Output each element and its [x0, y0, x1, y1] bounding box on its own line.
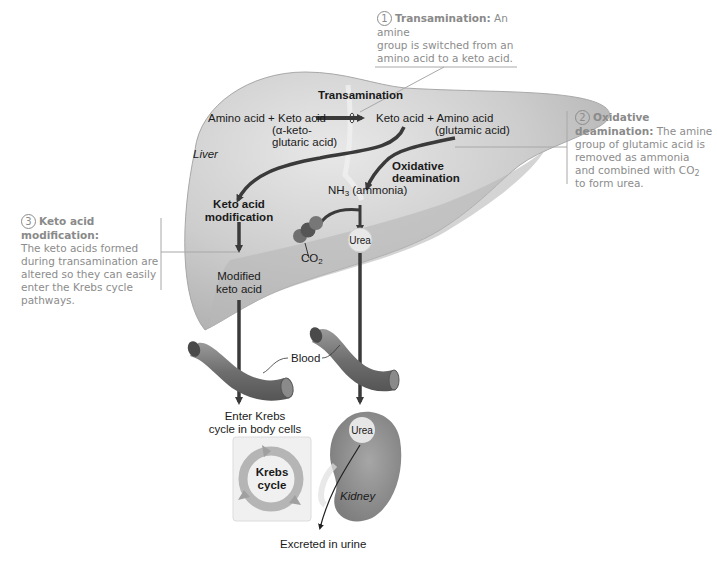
callout-oxidative-deamination: 2Oxidative deamination: The amine group … [575, 110, 717, 190]
label-blood: Blood [291, 352, 320, 365]
callout-keto-acid-modification: 3Keto acid modification: The keto acids … [21, 214, 161, 307]
label-co2: CO2 [301, 252, 323, 265]
label-product-note: (glutamic acid) [435, 124, 510, 137]
label-transamination: Transamination [318, 89, 403, 102]
label-modified-keto-acid: Modified keto acid [205, 270, 273, 296]
step-number-badge: 3 [21, 214, 36, 229]
label-urea-liver: Urea [344, 234, 376, 247]
label-krebs-cycle: Krebs cycle [246, 466, 298, 492]
step-number-badge: 1 [377, 11, 392, 26]
label-ammonia: NH3 (ammonia) [328, 184, 407, 197]
blood-vessel-right [308, 325, 399, 391]
label-enter-krebs: Enter Krebs cycle in body cells [205, 410, 305, 436]
label-reactant-note-2: glutaric acid) [272, 136, 337, 149]
step-number-badge: 2 [575, 110, 590, 125]
label-urea-kidney: Urea [346, 424, 378, 437]
callout-transamination: 1Transamination: An amine group is switc… [377, 11, 527, 65]
label-keto-acid-modification: Keto acid modification [195, 198, 283, 224]
label-liver: Liver [193, 148, 218, 161]
label-excreted-in-urine: Excreted in urine [280, 538, 366, 551]
label-kidney: Kidney [340, 490, 375, 503]
